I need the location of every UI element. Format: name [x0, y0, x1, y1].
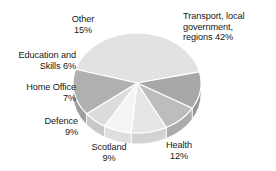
slice-label-scotland: Scotland 9%: [78, 142, 140, 163]
slice-label-transport: Transport, local government, regions 42%: [183, 11, 275, 43]
slice-label-education: Education and Skills 6%: [2, 50, 76, 71]
pie-chart: Other 15% Transport, local government, r…: [0, 0, 276, 171]
slice-label-health: Health 12%: [150, 140, 208, 161]
slice-label-other: Other 15%: [52, 14, 114, 35]
slice-label-defence: Defence 9%: [10, 116, 78, 137]
slice-label-home-office: Home Office 7%: [2, 82, 76, 103]
